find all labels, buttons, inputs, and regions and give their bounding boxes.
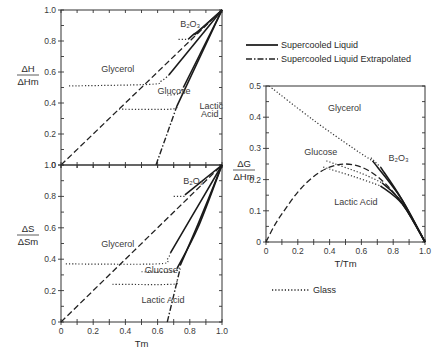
x-tick-label: 0.8 <box>184 326 196 336</box>
x-tick-label: 0.6 <box>152 326 164 336</box>
annotation-label: Glycerol <box>101 239 134 249</box>
glass-glycerol <box>66 253 171 264</box>
annotation-label: Glucose <box>304 147 337 157</box>
annotation-label: Glycerol <box>328 103 361 113</box>
y-tick-label: 0 <box>256 237 261 247</box>
panel-enthalpy: 00.20.40.60.81.0ΔHΔHmB₂O₃GlycerolGlucose… <box>17 5 223 170</box>
y-axis-label-denominator: ΔSm <box>18 236 39 247</box>
x-axis-label: Tm <box>135 338 149 349</box>
x-tick-label: 0.4 <box>119 326 131 336</box>
y-tick-label: 0.3 <box>249 143 261 153</box>
y-axis-label-denominator: ΔHm <box>233 171 254 182</box>
annotation-label: Acid <box>201 109 219 119</box>
y-tick-label: 0.8 <box>44 191 56 201</box>
y-axis-label-numerator: ΔG <box>237 158 251 169</box>
x-tick-label: 0.8 <box>387 246 399 256</box>
y-tick-label: 0.1 <box>249 206 261 216</box>
glass-lactic-acid <box>323 167 380 186</box>
annotation-label: Lactic Acid <box>142 295 185 305</box>
legend: Supercooled LiquidSupercooled Liquid Ext… <box>246 40 411 295</box>
glass-lactic-acid <box>113 281 179 284</box>
annotation-label: B₂O₃ <box>388 153 408 163</box>
y-axis-label-denominator: ΔHm <box>17 76 38 87</box>
liquid-glycerol <box>373 161 425 242</box>
x-tick-label: 1.0 <box>216 326 228 336</box>
y-tick-label: 0.6 <box>44 223 56 233</box>
annotation-label: B₂O₃ <box>183 176 203 186</box>
legend-label: Supercooled Liquid Extrapolated <box>281 54 411 64</box>
glass-glycerol <box>69 75 169 86</box>
glass-glucose <box>326 161 382 183</box>
annotation-label: Glucose <box>145 265 178 275</box>
panel-gibbs: 00.10.20.30.40.500.20.40.60.81.0ΔGΔHmT/T… <box>233 81 431 269</box>
y-axis-label-numerator: ΔH <box>21 63 34 74</box>
x-tick-label: 0.2 <box>292 246 304 256</box>
x-tick-label: 1.0 <box>419 246 431 256</box>
y-axis-label-numerator: ΔS <box>22 223 35 234</box>
annotation-label: B₂O₃ <box>180 19 200 29</box>
panel-entropy: 00.20.40.60.81.000.20.40.60.81.0ΔSΔSmTmB… <box>17 160 228 349</box>
glass-lactic-acid <box>119 106 177 109</box>
series-lactic-acid-extrapolated <box>156 106 177 165</box>
x-tick-label: 0 <box>59 326 64 336</box>
y-tick-label: 0.4 <box>44 254 56 264</box>
x-tick-label: 0.4 <box>324 246 336 256</box>
legend-label: Glass <box>313 285 337 295</box>
y-tick-label: 0.8 <box>44 36 56 46</box>
annotation-label: Glycerol <box>101 64 134 74</box>
x-tick-label: 0.2 <box>87 326 99 336</box>
series-reference-diagonal <box>61 10 222 165</box>
y-tick-label: 1.0 <box>44 5 56 15</box>
y-tick-label: 0.2 <box>44 129 56 139</box>
x-tick-label: 0 <box>264 246 269 256</box>
annotation-label: Lactic Acid <box>334 197 377 207</box>
y-tick-label: 1.0 <box>44 160 56 170</box>
y-tick-label: 0.5 <box>249 81 261 91</box>
annotation-label: Glucose <box>158 86 191 96</box>
x-tick-label: 0.6 <box>355 246 367 256</box>
y-tick-label: 0.4 <box>44 98 56 108</box>
liquid-lactic-acid <box>380 186 425 242</box>
x-axis-label: T/Tm <box>334 258 356 269</box>
legend-label: Supercooled Liquid <box>281 40 358 50</box>
y-tick-label: 0.2 <box>44 286 56 296</box>
y-tick-label: 0.6 <box>44 67 56 77</box>
y-tick-label: 0 <box>51 317 56 327</box>
y-tick-label: 0.4 <box>249 112 261 122</box>
thermodynamic-chart: 00.20.40.60.81.0ΔHΔHmB₂O₃GlycerolGlucose… <box>0 0 438 352</box>
